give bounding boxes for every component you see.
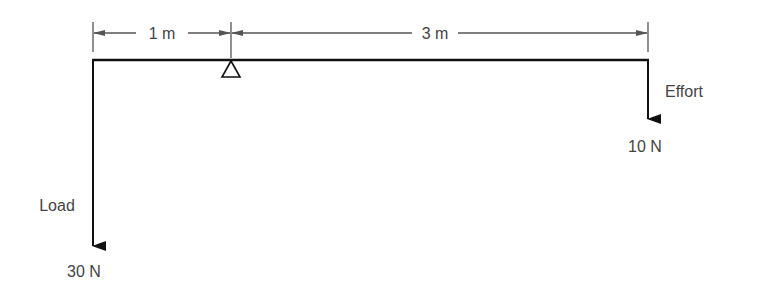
dimension-1m: 1 m: [94, 25, 230, 42]
dimension-3m-label: 3 m: [422, 25, 449, 42]
dimension-1m-label: 1 m: [149, 25, 176, 42]
load-value: 30 N: [67, 263, 101, 280]
lever-diagram: 1 m 3 m Load 30 N Effort 10 N: [0, 0, 760, 296]
load-label: Load: [39, 197, 75, 214]
dimension-3m: 3 m: [232, 25, 647, 42]
effort-value: 10 N: [628, 138, 662, 155]
dimension-ticks: [93, 22, 648, 58]
fulcrum-icon: [222, 61, 240, 77]
effort-label: Effort: [665, 83, 704, 100]
